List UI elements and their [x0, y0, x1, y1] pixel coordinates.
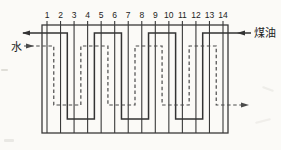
- plate-number-7: 7: [126, 10, 131, 20]
- plate-numbers-group: 1234567891011121314: [45, 10, 228, 20]
- plate-number-10: 10: [164, 10, 174, 20]
- plate-number-1: 1: [45, 10, 50, 20]
- plate-number-3: 3: [72, 10, 77, 20]
- plate-number-12: 12: [191, 10, 201, 20]
- water-inlet-arrowhead: [26, 43, 34, 48]
- plate-number-2: 2: [58, 10, 63, 20]
- heat-exchanger-diagram: 1234567891011121314 水 煤油: [0, 0, 281, 150]
- kerosene-label: 煤油: [254, 26, 276, 39]
- plate-number-14: 14: [218, 10, 228, 20]
- water-label: 水: [11, 41, 22, 53]
- plate-lines-group: [47, 21, 223, 133]
- plate-number-13: 13: [205, 10, 215, 20]
- water-outlet-arrowhead: [241, 102, 249, 107]
- kerosene-inlet-arrowhead: [237, 30, 245, 35]
- plate-number-5: 5: [99, 10, 104, 20]
- plate-number-6: 6: [112, 10, 117, 20]
- kerosene-outlet-arrowhead: [22, 30, 30, 35]
- plate-number-11: 11: [178, 10, 187, 20]
- water-flow-path: [24, 46, 244, 105]
- page: { "diagram": { "kind": "plate-heat-excha…: [0, 0, 281, 150]
- plate-number-4: 4: [85, 10, 90, 20]
- plate-number-8: 8: [139, 10, 144, 20]
- plate-number-9: 9: [153, 10, 158, 20]
